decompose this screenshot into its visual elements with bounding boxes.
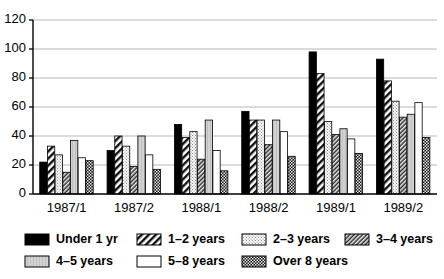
bar-light-gray-1987/1	[71, 140, 78, 194]
bar-solid-black-1989/2	[376, 59, 383, 194]
y-axis-tick-labels: 020406080100120	[4, 11, 26, 200]
legend-swatch-checker	[242, 256, 266, 267]
bar-fine-dots-1988/1	[190, 132, 197, 194]
x-tick-label: 1989/1	[316, 200, 356, 215]
y-tick-label: 120	[4, 11, 26, 26]
y-tick-label: 80	[12, 69, 26, 84]
legend-swatch-light-gray	[25, 256, 49, 267]
x-tick-label: 1988/2	[249, 200, 289, 215]
bar-diagonal-hatch-1988/2	[249, 120, 256, 194]
bar-diagonal-hatch-1987/1	[47, 146, 54, 194]
legend-label: 2–3 years	[273, 232, 330, 246]
legend-swatch-solid-black	[25, 234, 49, 245]
y-tick-label: 20	[12, 156, 26, 171]
bar-empty-white-1989/1	[348, 139, 355, 194]
bar-fine-dots-1989/2	[392, 101, 399, 194]
bars-group	[40, 52, 430, 194]
bar-dense-hatch-1987/2	[130, 166, 137, 194]
bar-light-gray-1988/2	[273, 120, 280, 194]
bar-dense-hatch-1988/1	[197, 159, 204, 194]
legend-label: Over 8 years	[273, 254, 348, 268]
bar-checker-1987/2	[153, 169, 160, 194]
x-tick-label: 1987/2	[114, 200, 154, 215]
legend-swatch-fine-dots	[242, 234, 266, 245]
legend-label: 4–5 years	[56, 254, 113, 268]
chart-canvas: 020406080100120 1987/11987/21988/11988/2…	[0, 0, 444, 279]
bar-checker-1989/1	[355, 153, 362, 194]
bar-fine-dots-1989/1	[324, 122, 331, 195]
bar-light-gray-1989/2	[407, 114, 414, 194]
bar-diagonal-hatch-1989/1	[317, 74, 324, 194]
bar-checker-1989/2	[423, 137, 430, 194]
bar-light-gray-1988/1	[205, 120, 212, 194]
bar-empty-white-1988/1	[213, 151, 220, 195]
legend-swatch-dense-hatch	[345, 234, 369, 245]
legend-label: Under 1 yr	[56, 232, 118, 246]
bar-solid-black-1987/1	[40, 162, 47, 194]
legend-swatch-diagonal-hatch	[137, 234, 161, 245]
bar-diagonal-hatch-1989/2	[384, 81, 391, 194]
bar-fine-dots-1987/2	[122, 146, 129, 194]
bar-light-gray-1989/1	[340, 129, 347, 194]
x-axis-tick-labels: 1987/11987/21988/11988/21989/11989/2	[47, 200, 423, 215]
bar-dense-hatch-1988/2	[265, 145, 272, 194]
bar-solid-black-1989/1	[309, 52, 316, 194]
bar-solid-black-1988/2	[242, 111, 249, 194]
bar-chart: 020406080100120 1987/11987/21988/11988/2…	[0, 0, 444, 279]
bar-empty-white-1987/2	[146, 155, 153, 194]
bar-diagonal-hatch-1988/1	[182, 137, 189, 194]
legend-label: 5–8 years	[168, 254, 225, 268]
bar-checker-1987/1	[86, 161, 93, 194]
bar-dense-hatch-1987/1	[63, 172, 70, 194]
bar-empty-white-1989/2	[415, 103, 422, 194]
legend-label: 3–4 years	[376, 232, 433, 246]
y-tick-label: 100	[4, 40, 26, 55]
bar-fine-dots-1987/1	[55, 155, 62, 194]
bar-dense-hatch-1989/2	[399, 117, 406, 194]
bar-checker-1988/2	[288, 156, 295, 194]
y-tick-label: 40	[12, 127, 26, 142]
bar-empty-white-1988/2	[280, 132, 287, 194]
x-tick-label: 1988/1	[181, 200, 221, 215]
bar-light-gray-1987/2	[138, 136, 145, 194]
y-tick-label: 60	[12, 98, 26, 113]
chart-legend: Under 1 yr1–2 years2–3 years3–4 years4–5…	[25, 232, 433, 268]
x-tick-label: 1989/2	[383, 200, 423, 215]
bar-diagonal-hatch-1987/2	[115, 136, 122, 194]
bar-fine-dots-1988/2	[257, 120, 264, 194]
legend-swatch-empty-white	[137, 256, 161, 267]
y-tick-label: 0	[19, 185, 26, 200]
legend-label: 1–2 years	[168, 232, 225, 246]
bar-solid-black-1987/2	[107, 151, 114, 195]
bar-empty-white-1987/1	[78, 158, 85, 194]
bar-dense-hatch-1989/1	[332, 135, 339, 194]
x-tick-label: 1987/1	[47, 200, 87, 215]
bar-checker-1988/1	[221, 171, 228, 194]
bar-solid-black-1988/1	[174, 124, 181, 194]
